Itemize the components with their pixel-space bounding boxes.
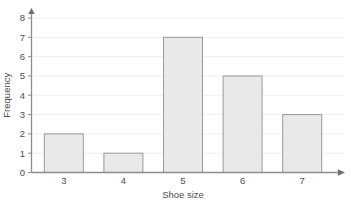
bar-3 <box>44 134 83 173</box>
y-axis-title: Frequency <box>1 73 12 118</box>
y-tick-label: 8 <box>20 12 25 23</box>
y-tick-label: 7 <box>20 32 25 43</box>
bar-7 <box>283 115 322 173</box>
x-tick-label-5: 5 <box>180 175 185 186</box>
y-tick-labels-group: 012345678 <box>20 12 25 178</box>
y-axis-title-text: Frequency <box>1 73 12 118</box>
bar-chart-figure: 012345678 34567 Shoe size Frequency <box>0 0 351 204</box>
y-tick-label: 6 <box>20 51 25 62</box>
bar-4 <box>104 153 143 172</box>
y-tick-label: 3 <box>20 109 25 120</box>
y-tick-label: 5 <box>20 70 25 81</box>
x-axis-arrow-icon <box>338 169 345 175</box>
bar-6 <box>223 76 262 173</box>
x-tick-label-3: 3 <box>61 175 66 186</box>
x-tick-labels-group: 34567 <box>61 175 305 186</box>
x-tick-label-6: 6 <box>240 175 245 186</box>
x-axis-title-text: Shoe size <box>162 189 204 200</box>
y-tick-label: 0 <box>20 167 25 178</box>
y-tick-label: 4 <box>20 90 25 101</box>
x-tick-label-7: 7 <box>300 175 305 186</box>
x-axis-title: Shoe size <box>162 189 204 200</box>
y-tick-label: 1 <box>20 148 25 159</box>
x-tick-label-4: 4 <box>121 175 126 186</box>
bar-5 <box>164 37 203 172</box>
y-axis-arrow-icon <box>28 8 34 14</box>
chart-canvas: 012345678 34567 Shoe size Frequency <box>0 0 351 204</box>
y-tick-label: 2 <box>20 128 25 139</box>
bars-group <box>44 37 321 172</box>
